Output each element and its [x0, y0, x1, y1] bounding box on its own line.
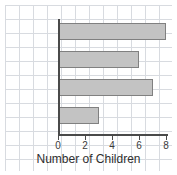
bar-stickers	[58, 51, 139, 68]
bar-buttons	[58, 23, 166, 40]
x-tick-label: 2	[75, 140, 95, 152]
x-tick-label: 0	[48, 140, 68, 152]
bar-stamps	[58, 107, 99, 124]
x-tick-label: 4	[102, 140, 122, 152]
x-tick-label: 8	[156, 140, 176, 152]
x-axis-line	[58, 134, 168, 136]
x-axis-title: Number of Children	[0, 152, 177, 166]
x-tick-label: 6	[129, 140, 149, 152]
bar-chart-figure: Buttons Stickers Seashells Stamps 0 2 4 …	[0, 0, 177, 175]
bar-seashells	[58, 79, 153, 96]
y-axis-line	[58, 19, 60, 135]
plot-area: Buttons Stickers Seashells Stamps 0 2 4 …	[0, 0, 177, 175]
